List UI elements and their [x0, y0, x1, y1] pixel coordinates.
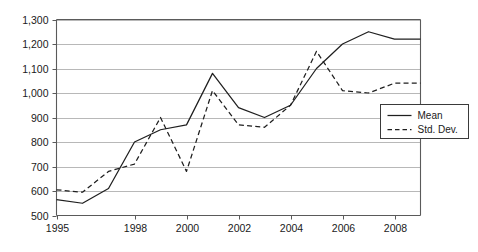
- x-axis-labels: 1995199820002002200420062008: [46, 222, 408, 234]
- chart-legend: MeanStd. Dev.: [381, 105, 469, 139]
- x-axis-label-2002: 2002: [228, 222, 252, 234]
- legend-label-mean: Mean: [418, 110, 443, 121]
- x-tick-marks: [58, 216, 396, 220]
- y-axis-label-1300: 1,300: [22, 14, 48, 26]
- y-axis-label-500: 500: [31, 210, 49, 222]
- line-chart: 5006007008009001,0001,1001,2001,300 1995…: [0, 0, 478, 252]
- y-axis-label-1200: 1,200: [22, 38, 48, 50]
- x-axis-label-2006: 2006: [332, 222, 356, 234]
- x-axis-label-2000: 2000: [176, 222, 200, 234]
- y-axis-label-800: 800: [31, 136, 49, 148]
- plot-frame: [57, 20, 421, 216]
- y-axis-label-1100: 1,100: [22, 63, 48, 75]
- y-axis-labels: 5006007008009001,0001,1001,2001,300: [22, 14, 48, 222]
- x-axis-label-2004: 2004: [280, 222, 304, 234]
- x-axis-label-2008: 2008: [384, 222, 408, 234]
- y-tick-marks: [53, 21, 57, 217]
- y-axis-label-700: 700: [31, 161, 49, 173]
- y-axis-label-1000: 1,000: [22, 87, 48, 99]
- chart-canvas: 5006007008009001,0001,1001,2001,300 1995…: [0, 0, 478, 252]
- x-axis-label-1995: 1995: [46, 222, 70, 234]
- gridlines-group: [57, 21, 421, 192]
- series-line-mean: [57, 32, 421, 204]
- series-line-std-dev: [57, 51, 421, 192]
- legend-label-std-dev: Std. Dev.: [418, 124, 458, 135]
- y-axis-label-600: 600: [31, 185, 49, 197]
- y-axis-label-900: 900: [31, 112, 49, 124]
- x-axis-label-1998: 1998: [124, 222, 148, 234]
- data-series-group: [57, 32, 421, 204]
